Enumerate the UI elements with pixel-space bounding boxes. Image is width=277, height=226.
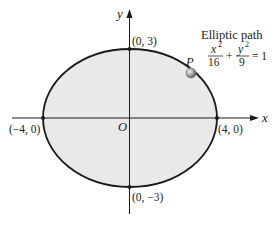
ellipse-equation: x 2 16 + y 2 9 = 1 [208, 40, 267, 68]
eq-x-exponent: 2 [218, 40, 222, 49]
point-left-dot [41, 116, 45, 120]
x-axis-label: x [261, 110, 268, 125]
eq-x-numerator: x [210, 43, 217, 55]
point-top-dot [128, 47, 132, 51]
eq-y-denominator: 9 [239, 56, 245, 68]
point-bottom-dot [128, 185, 132, 189]
point-top-label: (0, 3) [132, 35, 157, 48]
eq-y-numerator: y [237, 43, 244, 56]
elliptic-path-diagram: y x O (0, 3) (0, −3) (−4, 0) (4, 0) P El… [0, 0, 277, 226]
point-left-label: (−4, 0) [9, 123, 41, 136]
point-bottom-label: (0, −3) [132, 191, 164, 204]
point-right-label: (4, 0) [218, 123, 243, 136]
point-p-marker [186, 68, 196, 78]
y-axis-arrow-icon [127, 9, 133, 18]
eq-x-denominator: 16 [208, 56, 220, 68]
y-axis-label: y [115, 6, 123, 21]
diagram-canvas: y x O (0, 3) (0, −3) (−4, 0) (4, 0) P El… [0, 0, 277, 226]
origin-label: O [118, 120, 127, 134]
eq-y-exponent: 2 [245, 40, 249, 49]
point-right-dot [215, 116, 219, 120]
x-axis-arrow-icon [250, 115, 259, 121]
eq-rhs: = 1 [252, 50, 267, 62]
diagram-title: Elliptic path [201, 28, 263, 42]
eq-plus: + [226, 50, 233, 62]
point-p-label: P [185, 55, 194, 69]
